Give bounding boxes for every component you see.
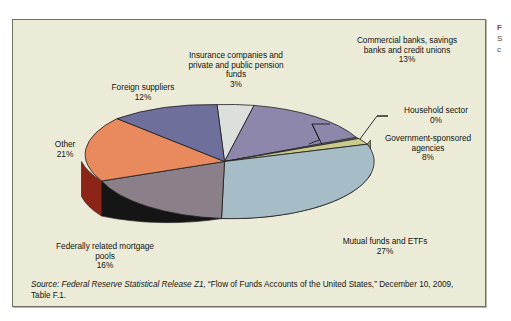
figure-frame: Insurance companies and private and publ… (12, 19, 486, 307)
pie-label-mutual-funds-etfs: Mutual funds and ETFs 27% (311, 237, 459, 256)
pie-label-commercial-pct: 13% (331, 55, 483, 65)
pie-label-government-sponsored-agencies: Government-sponsored agencies 8% (373, 134, 483, 163)
pie-label-commercial-banks: Commercial banks, savings banks and cred… (331, 36, 483, 65)
pie-label-household-sector: Household sector 0% (389, 106, 483, 125)
margin-caption-cropped: F S c (497, 22, 511, 60)
source-note: Source: Federal Reserve Statistical Rele… (31, 279, 475, 302)
figure-inner: Insurance companies and private and publ… (13, 20, 485, 306)
margin-caption-line1: F (497, 22, 511, 33)
pie-label-household-pct: 0% (389, 116, 483, 126)
pie-label-federally-related-mortgage-pools: Federally related mortgage pools 16% (29, 242, 181, 271)
pie-label-federally-pct: 16% (29, 261, 181, 271)
source-note-lead: Source: Federal Reserve Statistical Rele… (31, 280, 206, 289)
pie-label-other-pct: 21% (38, 150, 92, 160)
pie-label-mutual-pct: 27% (311, 247, 459, 257)
margin-caption-line2: S (497, 33, 511, 44)
pie-label-other: Other 21% (38, 140, 92, 159)
pie-chart: Insurance companies and private and publ… (13, 20, 485, 268)
pie-label-foreign-suppliers: Foreign suppliers 12% (90, 83, 196, 102)
pie-label-gse-pct: 8% (373, 153, 483, 163)
margin-caption-line3: c (497, 44, 511, 55)
pie-label-foreign-pct: 12% (90, 93, 196, 103)
